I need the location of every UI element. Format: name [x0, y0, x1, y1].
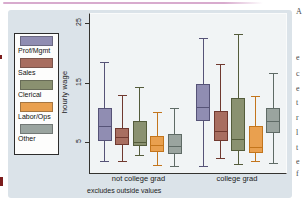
plot-note: excludes outside values [87, 187, 161, 194]
legend-entry-labor-ops: Labor/Ops [15, 102, 58, 122]
legend-swatch-prof-mgmt [20, 36, 53, 46]
median-line [169, 146, 181, 147]
whisker-cap-lower [135, 155, 144, 156]
whisker-lower [203, 121, 204, 166]
legend-label: Other [18, 134, 58, 144]
whisker-lower [157, 152, 158, 165]
whisker-cap-upper [234, 34, 243, 35]
whisker-cap-lower [216, 158, 225, 159]
whisker-cap-upper [269, 73, 278, 74]
y-tick-label: 5 [74, 133, 84, 149]
whisker-cap-lower [269, 163, 278, 164]
cropped-letter-fragment: c [296, 70, 300, 78]
whisker-lower [174, 154, 175, 166]
whisker-upper [174, 108, 175, 134]
whisker-cap-lower [234, 164, 243, 165]
page-text-column-fragment: Aecetrltef [293, 0, 304, 205]
whisker-cap-upper [251, 96, 260, 97]
legend-label: Clerical [18, 90, 58, 100]
box-labor-ops [150, 136, 164, 152]
legend-entry-other: Other [15, 124, 58, 144]
page-top-rule [3, 2, 263, 4]
whisker-cap-upper [216, 64, 225, 65]
whisker-upper [104, 62, 105, 108]
whisker-cap-lower [100, 161, 109, 162]
legend-swatch-sales [20, 58, 53, 68]
x-group-label-not-college-grad: not college grad [112, 174, 165, 183]
whisker-upper [203, 38, 204, 84]
legend-entry-clerical: Clerical [15, 80, 58, 100]
legend-label: Sales [18, 68, 58, 78]
y-tick-label: 15 [74, 74, 84, 90]
cropped-letter-fragment: t [296, 99, 298, 107]
whisker-lower [255, 153, 256, 161]
whisker-upper [220, 64, 221, 111]
whisker-cap-upper [170, 108, 179, 109]
whisker-cap-upper [135, 87, 144, 88]
median-line [197, 107, 209, 108]
whisker-cap-lower [199, 166, 208, 167]
whisker-lower [122, 145, 123, 161]
whisker-upper [157, 112, 158, 136]
whisker-lower [139, 146, 140, 155]
whisker-lower [273, 133, 274, 163]
page-edge-fragment [0, 177, 3, 186]
legend-swatch-clerical [20, 80, 53, 90]
box-prof-mgmt [98, 108, 112, 141]
whisker-cap-lower [118, 161, 127, 162]
median-line [116, 137, 128, 138]
legend-swatch-other [20, 124, 53, 134]
median-line [232, 139, 244, 140]
y-axis-title: hourly wage [60, 57, 70, 127]
cropped-letter-fragment: t [296, 144, 298, 152]
legend-swatch-labor-ops [20, 102, 53, 112]
whisker-lower [104, 141, 105, 161]
median-line [99, 126, 111, 127]
plot-area [89, 13, 287, 174]
median-line [267, 121, 279, 122]
median-line [134, 142, 146, 143]
whisker-cap-upper [118, 95, 127, 96]
y-tick-mark [85, 23, 89, 24]
whisker-lower [238, 151, 239, 164]
cropped-letter-fragment: A [296, 8, 302, 16]
box-clerical [231, 98, 245, 151]
whisker-upper [273, 73, 274, 108]
whisker-upper [139, 87, 140, 121]
whisker-upper [122, 95, 123, 128]
cropped-letter-fragment: e [296, 158, 300, 166]
box-prof-mgmt [196, 84, 210, 121]
whisker-cap-upper [199, 38, 208, 39]
cropped-letter-fragment: f [296, 170, 299, 178]
legend-entry-sales: Sales [15, 58, 58, 78]
whisker-cap-lower [153, 165, 162, 166]
whisker-cap-upper [153, 112, 162, 113]
page-edge-fragment [0, 55, 2, 59]
cropped-letter-fragment: r [296, 114, 299, 122]
median-line [250, 147, 262, 148]
box-labor-ops [249, 126, 263, 153]
legend: Prof/Mgmt Sales Clerical Labor/Ops Other [14, 33, 59, 155]
box-sales [214, 111, 228, 141]
cropped-letter-fragment: e [296, 85, 300, 93]
y-tick-mark [85, 142, 89, 143]
whisker-cap-lower [251, 161, 260, 162]
whisker-upper [255, 96, 256, 126]
median-line [151, 145, 163, 146]
cropped-letter-fragment: e [296, 54, 300, 62]
legend-label: Labor/Ops [18, 112, 58, 122]
y-tick-label: 25 [74, 14, 84, 30]
x-group-label-college-grad: college grad [217, 174, 258, 183]
whisker-lower [220, 141, 221, 158]
whisker-upper [238, 34, 239, 98]
boxplot-figure: Prof/Mgmt Sales Clerical Labor/Ops Other… [8, 10, 292, 198]
legend-label: Prof/Mgmt [18, 46, 58, 56]
y-tick-mark [85, 83, 89, 84]
box-other [168, 134, 182, 154]
median-line [215, 131, 227, 132]
legend-entry-prof-mgmt: Prof/Mgmt [15, 36, 58, 56]
cropped-letter-fragment: l [296, 129, 298, 137]
whisker-cap-upper [100, 62, 109, 63]
whisker-cap-lower [170, 166, 179, 167]
